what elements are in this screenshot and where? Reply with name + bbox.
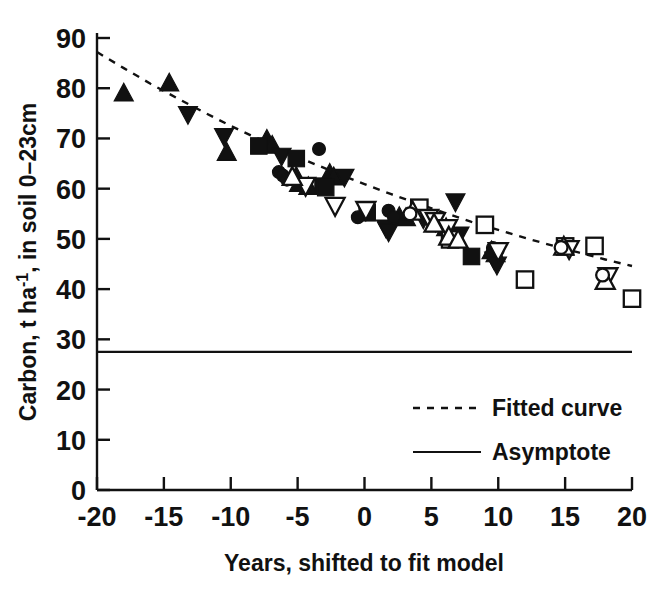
data-point-open-circle bbox=[404, 207, 417, 220]
data-point-open-circle bbox=[555, 241, 568, 254]
y-axis-tick-labels: 0102030405060708090 bbox=[56, 24, 86, 506]
x-axis-tick-labels: -20-15-10-505101520 bbox=[77, 502, 647, 532]
y-tick-label-60: 60 bbox=[56, 175, 86, 205]
x-tick-label-5: 5 bbox=[424, 502, 439, 532]
y-tick-label-40: 40 bbox=[56, 275, 86, 305]
data-point-filled-square bbox=[288, 150, 304, 166]
x-tick-label--20: -20 bbox=[77, 502, 116, 532]
x-axis-ticks bbox=[97, 477, 632, 490]
x-tick-label-10: 10 bbox=[483, 502, 513, 532]
data-point-open-square bbox=[586, 238, 602, 254]
data-point-filled-square bbox=[251, 138, 267, 154]
y-tick-label-90: 90 bbox=[56, 24, 86, 54]
data-point-filled-down-triangle bbox=[215, 129, 234, 147]
data-point-filled-circle bbox=[388, 211, 401, 224]
x-tick-label--5: -5 bbox=[286, 502, 310, 532]
chart-figure: 0102030405060708090 -20-15-10-505101520 … bbox=[0, 0, 656, 597]
data-point-open-square bbox=[477, 217, 493, 233]
y-axis-ticks bbox=[97, 38, 110, 490]
fitted-curve-line bbox=[97, 52, 632, 266]
x-tick-label-15: 15 bbox=[550, 502, 580, 532]
legend-label-fitted-curve: Fitted curve bbox=[492, 395, 622, 421]
data-point-open-down-triangle bbox=[326, 198, 345, 216]
data-point-filled-up-triangle bbox=[217, 143, 236, 161]
data-point-filled-up-triangle bbox=[114, 83, 133, 101]
y-tick-label-70: 70 bbox=[56, 124, 86, 154]
data-point-open-circle bbox=[596, 269, 609, 282]
data-point-filled-up-triangle bbox=[160, 73, 179, 91]
data-point-open-square bbox=[624, 290, 640, 306]
data-point-filled-square bbox=[318, 179, 334, 195]
legend: Fitted curve Asymptote bbox=[413, 395, 622, 465]
data-point-filled-down-triangle bbox=[446, 194, 465, 212]
y-tick-label-80: 80 bbox=[56, 74, 86, 104]
y-tick-label-20: 20 bbox=[56, 376, 86, 406]
data-point-open-square bbox=[517, 271, 533, 287]
data-point-filled-square bbox=[463, 248, 479, 264]
y-tick-label-30: 30 bbox=[56, 325, 86, 355]
x-tick-label-0: 0 bbox=[357, 502, 372, 532]
x-tick-label--10: -10 bbox=[211, 502, 250, 532]
x-axis-title: Years, shifted to fit model bbox=[224, 550, 504, 576]
scatter-plot: 0102030405060708090 -20-15-10-505101520 … bbox=[0, 0, 656, 597]
y-axis-title-group: Carbon, t ha-1, in soil 0–23cm bbox=[14, 103, 41, 421]
x-tick-label--15: -15 bbox=[144, 502, 183, 532]
legend-label-asymptote: Asymptote bbox=[492, 439, 611, 465]
data-point-filled-circle bbox=[313, 143, 326, 156]
data-point-filled-down-triangle bbox=[379, 224, 398, 242]
y-axis-title: Carbon, t ha-1, in soil 0–23cm bbox=[14, 103, 41, 421]
y-tick-label-50: 50 bbox=[56, 225, 86, 255]
axes bbox=[97, 33, 632, 490]
data-point-filled-down-triangle bbox=[178, 107, 197, 125]
x-tick-label-20: 20 bbox=[617, 502, 647, 532]
y-tick-label-10: 10 bbox=[56, 426, 86, 456]
